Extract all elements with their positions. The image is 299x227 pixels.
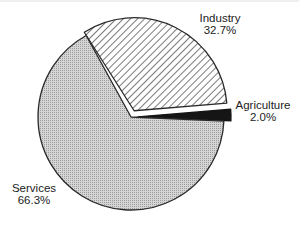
label-agriculture: Agriculture 2.0%	[228, 99, 298, 123]
label-services: Services 66.3%	[8, 182, 60, 206]
label-industry-value: 32.7%	[188, 24, 252, 36]
label-industry: Industry 32.7%	[188, 12, 252, 36]
label-agriculture-value: 2.0%	[228, 111, 298, 123]
label-services-value: 66.3%	[8, 194, 60, 206]
label-industry-name: Industry	[188, 12, 252, 24]
label-agriculture-name: Agriculture	[228, 99, 298, 111]
label-services-name: Services	[8, 182, 60, 194]
